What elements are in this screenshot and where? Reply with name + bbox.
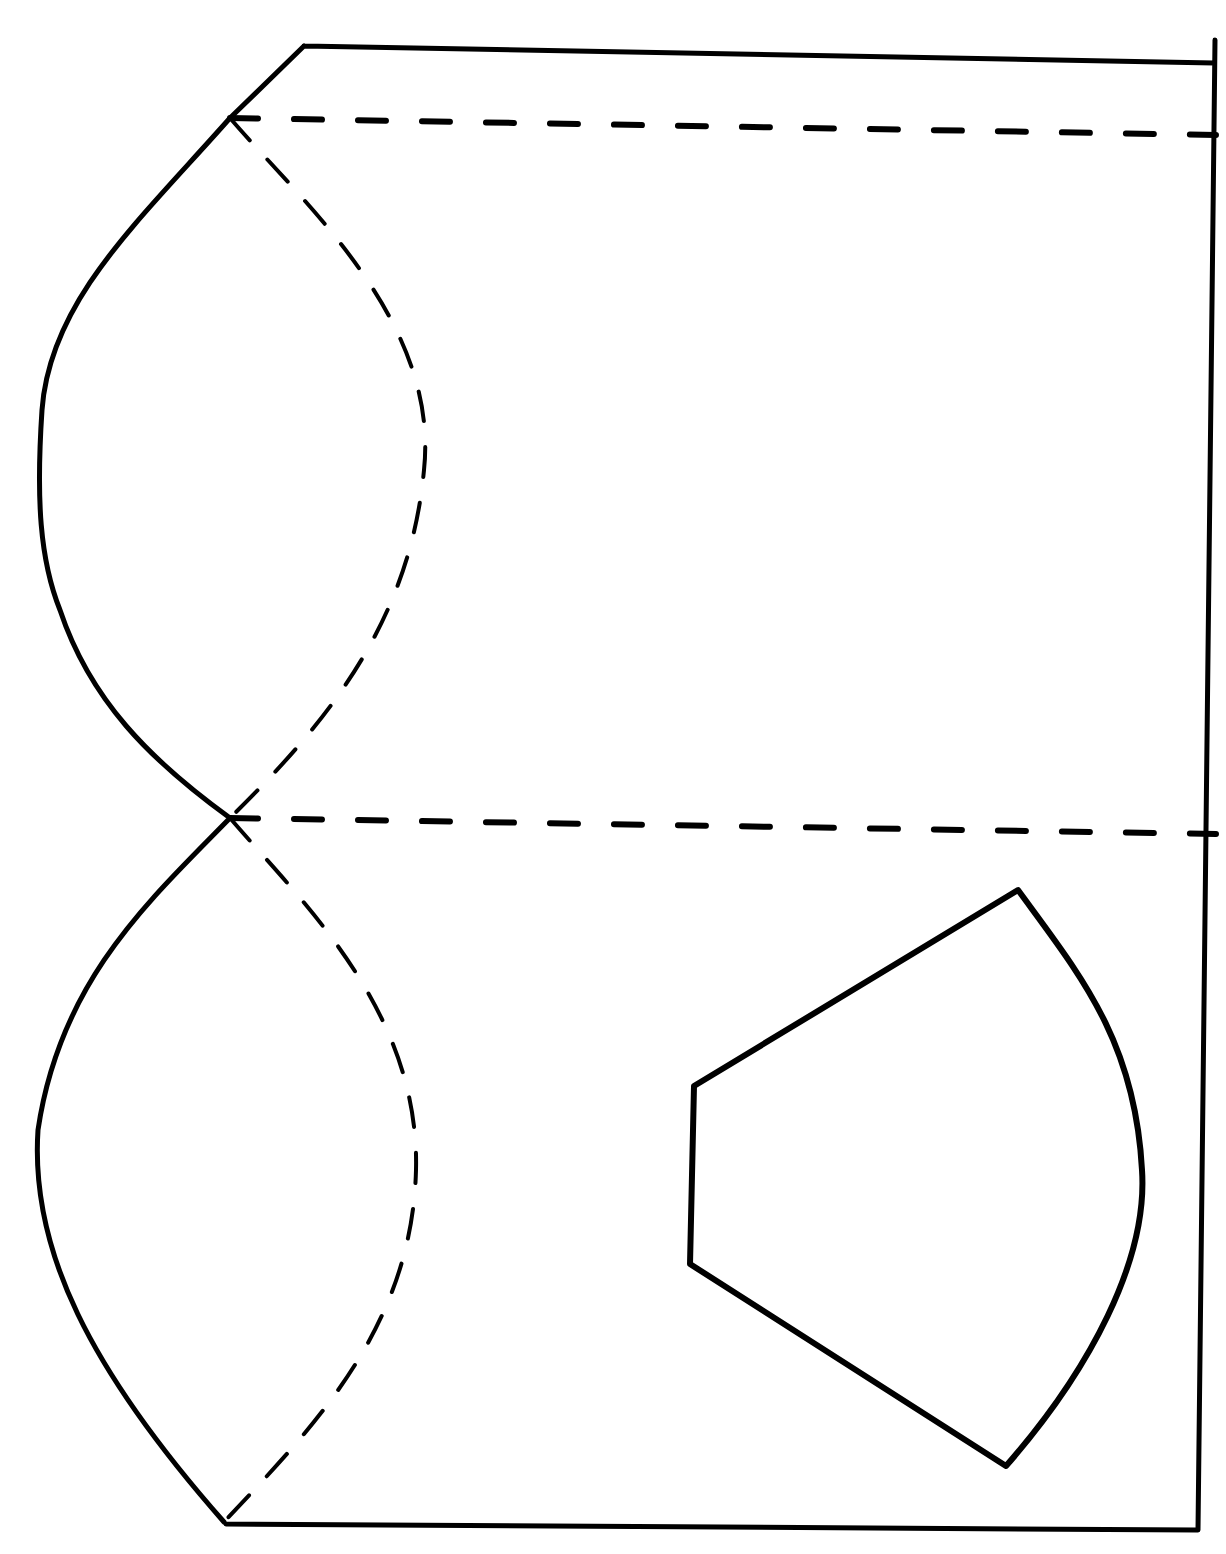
lower-fold-curve — [224, 818, 416, 1522]
top-fold-line — [230, 118, 1216, 135]
outer-cut-outline — [37, 40, 1215, 1530]
fan-shaped-piece — [690, 890, 1142, 1466]
pattern-template — [0, 0, 1226, 1554]
middle-fold-line — [230, 818, 1216, 834]
upper-fold-curve — [230, 118, 425, 818]
